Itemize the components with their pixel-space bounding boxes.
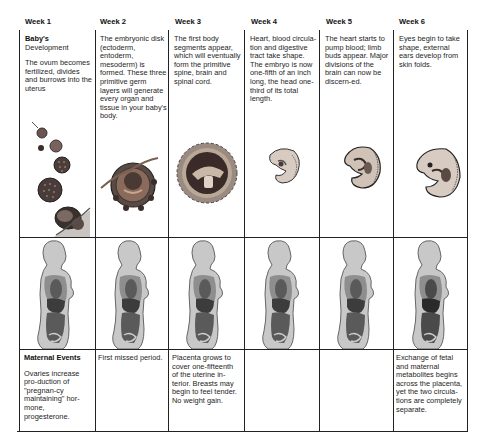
development-text-week-6: Eyes begin to take shape, external ears … [399,35,465,69]
mother-silhouette-week-6 [408,239,458,349]
development-text-week-1: The ovum becomes fertilized, divides and… [25,58,92,93]
maternal-text-week-2: First missed period. [98,354,166,363]
grid-vline [168,30,169,432]
grid-vline [244,30,245,432]
maternal-text-week-3: Placenta grows to cover one-fifteenth of… [172,354,240,406]
week-2-header: Week 2 [100,17,126,26]
maternal-text-week-6: Exchange of fetal and maternal metabolit… [396,354,464,414]
mother-silhouette-week-3 [182,239,232,349]
grid-hline [19,349,468,350]
grid-hline [19,237,468,238]
week-6-header: Week 6 [399,17,425,26]
grid-vline [319,30,320,432]
mother-silhouette-week-1 [33,239,83,349]
maternal-events-week-1: Maternal Events Ovaries increase pro-duc… [24,354,92,421]
grid-vline [95,30,96,432]
grid-hline [17,431,468,432]
mother-silhouette-week-5 [333,239,383,349]
ovum-division-illustration [20,110,95,237]
development-text-week-3: The first body segments appear, which wi… [174,35,242,87]
grid-vline [393,30,394,432]
mother-silhouette-week-2 [108,239,158,349]
body-segments-illustration [170,138,244,208]
embryo-week-4-illustration [262,145,304,187]
mother-silhouette-week-4 [258,239,308,349]
embryo-week-5-illustration [340,142,385,192]
babys-development-week-1: Baby's Development The ovum becomes fert… [25,35,93,94]
week-5-header: Week 5 [326,17,352,26]
week-1-header: Week 1 [25,17,51,26]
week-3-header: Week 3 [175,17,201,26]
development-text-week-5: The heart starts to pump blood; limb bud… [325,35,392,87]
maternal-events-heading: Maternal Events [24,354,92,363]
development-text-week-4: Heart, blood circula-tion and digestive … [250,35,318,104]
maternal-text-week-1: Ovaries increase pro-duction of "pregnan… [24,369,80,421]
babys-development-subheading: Development [25,44,93,53]
grid-vline [467,30,468,432]
development-text-week-2: The embryonic disk (ectoderm, entoderm, … [100,35,168,121]
week-4-header: Week 4 [251,17,277,26]
embryo-week-6-illustration [414,145,464,201]
embryonic-disk-illustration [96,150,168,220]
